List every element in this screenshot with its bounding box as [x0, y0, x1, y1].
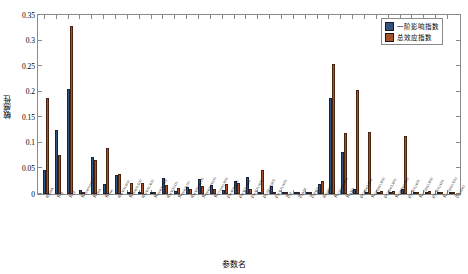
y-tick-label: 0.05	[22, 165, 38, 173]
bar-group	[88, 15, 100, 194]
bar-group	[327, 15, 339, 194]
bar-group	[219, 15, 231, 194]
bar-group	[52, 15, 64, 194]
bar-group	[231, 15, 243, 194]
bar-total-effect	[58, 155, 61, 194]
y-tick-label: 0.25	[22, 62, 38, 70]
bar-total-effect	[46, 98, 49, 194]
x-axis-tick-labels: φHMAKAKFFKHNO3/NO3-KHIAKmaxφHNO3,SO2KHNO…	[37, 196, 461, 252]
bar-group	[112, 15, 124, 194]
bar-group	[315, 15, 327, 194]
y-tick-label: 0.15	[22, 114, 38, 122]
bar-group	[446, 15, 458, 194]
bar-total-effect	[356, 90, 359, 194]
legend-swatch-total-effect	[385, 33, 394, 42]
legend-item-first-order: 一阶影响指数	[385, 21, 439, 31]
legend-label-first-order: 一阶影响指数	[397, 21, 439, 31]
bar-total-effect	[332, 64, 335, 194]
bar-group	[124, 15, 136, 194]
x-axis-title: 参数名	[0, 258, 468, 269]
bar-group	[64, 15, 76, 194]
bar-group	[303, 15, 315, 194]
bar-group	[171, 15, 183, 194]
bar-group	[195, 15, 207, 194]
y-axis-title: 敏感性	[2, 95, 13, 119]
bar-group	[291, 15, 303, 194]
bar-group	[76, 15, 88, 194]
bar-group	[338, 15, 350, 194]
y-tick-label: 0.3	[26, 37, 38, 45]
y-tick-label: 0.35	[22, 11, 38, 19]
bar-group	[350, 15, 362, 194]
x-tick-label: βFF	[285, 190, 293, 198]
x-tick-label: KFF	[68, 189, 77, 198]
legend-swatch-first-order	[385, 22, 394, 31]
bar-group	[136, 15, 148, 194]
bar-group	[100, 15, 112, 194]
bar-group	[255, 15, 267, 194]
bar-group	[279, 15, 291, 194]
bar-group	[183, 15, 195, 194]
legend: 一阶影响指数 总效应指数	[381, 18, 443, 45]
y-tick-label: 0.1	[26, 139, 38, 147]
bar-group	[147, 15, 159, 194]
bar-group	[159, 15, 171, 194]
legend-item-total-effect: 总效应指数	[385, 32, 439, 42]
y-tick-label: 0.2	[26, 88, 38, 96]
x-tick-label: KA	[56, 190, 64, 198]
bar-group	[40, 15, 52, 194]
bar-group	[362, 15, 374, 194]
bar-group	[243, 15, 255, 194]
bar-total-effect	[70, 26, 73, 194]
bar-group	[267, 15, 279, 194]
legend-label-total-effect: 总效应指数	[397, 32, 432, 42]
figure: 敏感性 00.050.10.150.20.250.30.35 φHMAKAKFF…	[0, 0, 468, 274]
bar-group	[207, 15, 219, 194]
